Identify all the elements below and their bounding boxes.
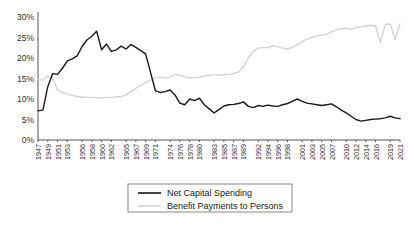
x-tick-label: 1947	[34, 144, 43, 160]
x-tick-label: 2012	[352, 144, 361, 160]
x-tick-label: 2016	[372, 144, 381, 160]
x-tick-label: 1969	[142, 144, 151, 160]
x-tick-label: 1978	[186, 144, 195, 160]
x-tick-label: 1998	[283, 144, 292, 160]
x-tick-label: 1960	[98, 144, 107, 160]
y-tick-label: 10%	[17, 94, 34, 104]
x-tick-label: 1965	[122, 144, 131, 160]
y-tick-label: 0%	[22, 135, 35, 145]
x-tick-label: 1953	[63, 144, 72, 160]
x-axis-tick-labels: 1947194919511953195619581960196219651967…	[34, 140, 405, 160]
x-tick-label: 1980	[195, 144, 204, 160]
x-tick-label: 2014	[362, 144, 371, 160]
x-tick-label: 1967	[132, 144, 141, 160]
x-tick-label: 1974	[166, 144, 175, 160]
x-tick-label: 1958	[88, 144, 97, 160]
x-tick-label: 2007	[328, 144, 337, 160]
x-tick-label: 1994	[264, 144, 273, 160]
y-tick-label: 30%	[17, 12, 34, 22]
x-tick-label: 1962	[107, 144, 116, 160]
x-tick-label: 1971	[151, 144, 160, 160]
y-axis-tick-labels: 0%5%10%15%20%25%30%	[17, 12, 34, 145]
x-tick-label: 2019	[386, 144, 395, 160]
x-tick-label: 1985	[220, 144, 229, 160]
x-tick-label: 1987	[230, 144, 239, 160]
x-tick-label: 2003	[308, 144, 317, 160]
x-tick-label: 2010	[342, 144, 351, 160]
x-tick-label: 1949	[44, 144, 53, 160]
x-tick-label: 1976	[176, 144, 185, 160]
x-tick-label: 1956	[78, 144, 87, 160]
y-tick-label: 20%	[17, 53, 34, 63]
y-tick-label: 25%	[17, 33, 34, 43]
legend-label: Benefit Payments to Persons	[167, 201, 284, 211]
x-tick-label: 2001	[298, 144, 307, 160]
x-tick-label: 2021	[396, 144, 405, 160]
series-line	[38, 31, 400, 121]
legend-label: Net Capital Spending	[167, 188, 252, 198]
chart-legend: Net Capital SpendingBenefit Payments to …	[128, 184, 292, 212]
line-chart: 0%5%10%15%20%25%30% 19471949195119531956…	[0, 0, 414, 226]
x-tick-label: 1983	[210, 144, 219, 160]
y-tick-label: 5%	[22, 115, 35, 125]
x-tick-label: 1951	[54, 144, 63, 160]
x-tick-label: 1989	[239, 144, 248, 160]
y-tick-label: 15%	[17, 74, 34, 84]
x-tick-label: 1996	[274, 144, 283, 160]
x-tick-label: 2005	[318, 144, 327, 160]
x-tick-label: 1992	[254, 144, 263, 160]
data-series-group	[38, 24, 400, 121]
